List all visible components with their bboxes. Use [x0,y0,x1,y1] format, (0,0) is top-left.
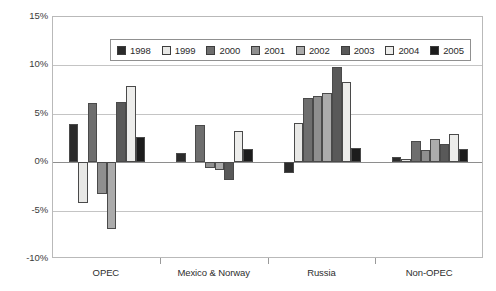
bar [332,67,342,162]
legend-entry: 2004 [385,45,419,56]
bar [351,148,361,163]
gridline [53,65,482,66]
bar [322,93,332,162]
legend-swatch-icon [341,46,350,55]
x-axis-category-label: Non-OPEC [406,267,453,278]
bar [234,131,244,162]
bar [411,141,421,162]
y-axis-tick-label: 0% [4,156,48,166]
bar [136,137,146,162]
bar [107,162,117,229]
legend-swatch-icon [430,46,439,55]
bar [126,86,136,162]
y-axis-tick-label: -10% [4,253,48,263]
legend-label: 2000 [219,45,240,56]
bar [69,124,79,162]
bar [88,103,98,162]
legend-swatch-icon [296,46,305,55]
x-axis-category-label: Russia [307,267,335,278]
bar [205,162,215,168]
gridline [53,211,482,212]
legend-swatch-icon [385,46,394,55]
legend-label: 2004 [398,45,419,56]
bar [116,102,126,162]
legend-entry: 2001 [251,45,285,56]
bar [401,159,411,162]
legend-entry: 1999 [162,45,196,56]
bar [176,153,186,163]
bar [430,139,440,162]
legend-entry: 1998 [117,45,151,56]
bar [449,134,459,162]
legend-label: 2002 [309,45,330,56]
legend-swatch-icon [206,46,215,55]
legend-label: 2005 [443,45,464,56]
x-axis-category-label: Mexico & Norway [177,267,249,278]
legend-label: 2003 [354,45,375,56]
bar [294,123,304,162]
y-axis-tick-label: -5% [4,205,48,215]
bar [392,157,402,162]
bar [313,96,323,162]
bar [97,162,107,194]
bar [440,144,450,162]
y-axis-tick-label: 5% [4,108,48,118]
chart-legend: 19981999200020012002200320042005 [110,39,471,61]
bar [459,149,469,163]
bar [195,125,205,162]
bar [215,162,225,170]
bar [243,149,253,163]
legend-entry: 2003 [341,45,375,56]
plot-area: 19981999200020012002200320042005 [52,16,483,258]
y-axis-tick-label: 15% [4,11,48,21]
y-axis-tick-label: 10% [4,59,48,69]
legend-entry: 2005 [430,45,464,56]
bar [303,98,313,162]
legend-label: 1999 [175,45,196,56]
bar [421,150,431,163]
zero-line [53,162,482,163]
legend-label: 1998 [130,45,151,56]
legend-swatch-icon [162,46,171,55]
legend-swatch-icon [251,46,260,55]
x-axis-category-label: OPEC [93,267,120,278]
legend-swatch-icon [117,46,126,55]
y-axis: 15%10%5%0%-5%-10% [0,16,48,258]
legend-entry: 2000 [206,45,240,56]
x-axis-tick-mark [268,258,269,264]
bar [78,162,88,203]
bar-chart: 15%10%5%0%-5%-10% 1998199920002001200220… [0,0,496,291]
bar [224,162,234,179]
x-axis: OPECMexico & NorwayRussiaNon-OPEC [52,258,483,288]
bar [342,82,352,162]
x-axis-tick-mark [375,258,376,264]
x-axis-tick-mark [160,258,161,264]
bar [284,162,294,173]
legend-label: 2001 [264,45,285,56]
legend-entry: 2002 [296,45,330,56]
